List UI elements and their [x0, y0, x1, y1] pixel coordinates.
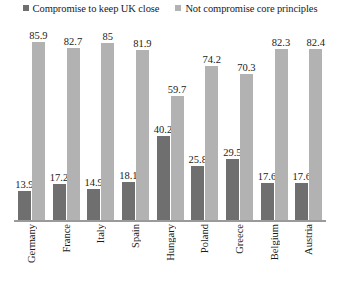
- category-label: Italy: [95, 224, 106, 243]
- bar-column[interactable]: 17.6: [295, 20, 308, 220]
- bar[interactable]: [53, 184, 66, 220]
- bar-value-label: 17.6: [293, 171, 311, 182]
- category-tick: Belgium: [257, 224, 292, 286]
- bar[interactable]: [101, 43, 114, 220]
- bar-group: 17.682.3: [257, 20, 292, 220]
- category-tick: Poland: [187, 224, 222, 286]
- bar-column[interactable]: 82.7: [67, 20, 80, 220]
- category-tick: France: [49, 224, 84, 286]
- category-label: Belgium: [269, 224, 280, 260]
- bar[interactable]: [171, 96, 184, 220]
- bar-column[interactable]: 82.3: [275, 20, 288, 220]
- category-tick: Spain: [118, 224, 153, 286]
- bar-column[interactable]: 85: [101, 20, 114, 220]
- bar-group: 13.985.9: [14, 20, 49, 220]
- bar-group: 17.282.7: [49, 20, 84, 220]
- bar[interactable]: [122, 182, 135, 220]
- legend-item-compromise: Compromise to keep UK close: [23, 3, 160, 14]
- category-label: Spain: [130, 224, 141, 248]
- category-tick: Italy: [83, 224, 118, 286]
- bar[interactable]: [136, 50, 149, 220]
- plot-area: 13.985.917.282.714.98518.181.940.259.725…: [14, 20, 326, 222]
- bar-column[interactable]: 85.9: [32, 20, 45, 220]
- bar-value-label: 40.2: [154, 124, 172, 135]
- category-axis-labels: GermanyFranceItalySpainHungaryPolandGree…: [14, 224, 326, 286]
- bar-value-label: 82.4: [307, 37, 325, 48]
- bar-value-label: 82.7: [64, 36, 82, 47]
- bar-column[interactable]: 40.2: [157, 20, 170, 220]
- legend-label: Compromise to keep UK close: [33, 3, 160, 14]
- legend-item-not-compromise: Not compromise core principles: [175, 3, 317, 14]
- bar-group: 29.570.3: [222, 20, 257, 220]
- bar-group: 18.181.9: [118, 20, 153, 220]
- legend-swatch-icon: [23, 5, 29, 11]
- bar-column[interactable]: 81.9: [136, 20, 149, 220]
- category-label: Poland: [199, 224, 210, 253]
- bar-value-label: 18.1: [119, 170, 137, 181]
- bar-value-label: 70.3: [237, 62, 255, 73]
- bar-value-label: 74.2: [203, 54, 221, 65]
- bar-column[interactable]: 74.2: [205, 20, 218, 220]
- bar-value-label: 59.7: [168, 84, 186, 95]
- category-label: Austria: [303, 224, 314, 255]
- bar[interactable]: [240, 74, 253, 220]
- bar[interactable]: [67, 48, 80, 220]
- bar-column[interactable]: 25.8: [191, 20, 204, 220]
- bar-value-label: 81.9: [133, 38, 151, 49]
- bar-value-label: 17.2: [50, 172, 68, 183]
- category-tick: Austria: [291, 224, 326, 286]
- chart-legend: Compromise to keep UK close Not compromi…: [0, 0, 340, 16]
- bar[interactable]: [205, 66, 218, 220]
- category-tick: Germany: [14, 224, 49, 286]
- bar[interactable]: [32, 42, 45, 220]
- bar-column[interactable]: 59.7: [171, 20, 184, 220]
- bar[interactable]: [295, 183, 308, 220]
- bar-value-label: 13.9: [15, 179, 33, 190]
- bar-groups: 13.985.917.282.714.98518.181.940.259.725…: [14, 20, 326, 220]
- bar-chart: Compromise to keep UK close Not compromi…: [0, 0, 340, 288]
- bar-column[interactable]: 17.2: [53, 20, 66, 220]
- bar-value-label: 14.9: [84, 177, 102, 188]
- x-axis-line: [14, 220, 326, 222]
- bar[interactable]: [261, 183, 274, 220]
- bar-value-label: 85: [102, 31, 113, 42]
- legend-swatch-icon: [175, 5, 181, 11]
- bar-column[interactable]: 29.5: [226, 20, 239, 220]
- category-label: Greece: [234, 224, 245, 254]
- bar[interactable]: [157, 136, 170, 220]
- bar-column[interactable]: 82.4: [309, 20, 322, 220]
- bar-column[interactable]: 13.9: [18, 20, 31, 220]
- bar-value-label: 85.9: [29, 30, 47, 41]
- category-tick: Greece: [222, 224, 257, 286]
- bar-group: 14.985: [83, 20, 118, 220]
- category-label: Hungary: [165, 224, 176, 261]
- bar-value-label: 25.8: [189, 154, 207, 165]
- legend-label: Not compromise core principles: [185, 3, 317, 14]
- category-label: Germany: [26, 224, 37, 263]
- bar-group: 40.259.7: [153, 20, 188, 220]
- bar-group: 25.874.2: [187, 20, 222, 220]
- bar-column[interactable]: 17.6: [261, 20, 274, 220]
- category-label: France: [61, 224, 72, 253]
- bar[interactable]: [275, 49, 288, 220]
- bar-column[interactable]: 18.1: [122, 20, 135, 220]
- bar[interactable]: [226, 159, 239, 220]
- bar-column[interactable]: 70.3: [240, 20, 253, 220]
- bar-value-label: 82.3: [272, 37, 290, 48]
- category-tick: Hungary: [153, 224, 188, 286]
- bar[interactable]: [87, 189, 100, 220]
- bar[interactable]: [309, 49, 322, 220]
- bar[interactable]: [18, 191, 31, 220]
- bar-value-label: 17.6: [258, 171, 276, 182]
- bar[interactable]: [191, 166, 204, 220]
- bar-group: 17.682.4: [291, 20, 326, 220]
- bar-column[interactable]: 14.9: [87, 20, 100, 220]
- bar-value-label: 29.5: [223, 147, 241, 158]
